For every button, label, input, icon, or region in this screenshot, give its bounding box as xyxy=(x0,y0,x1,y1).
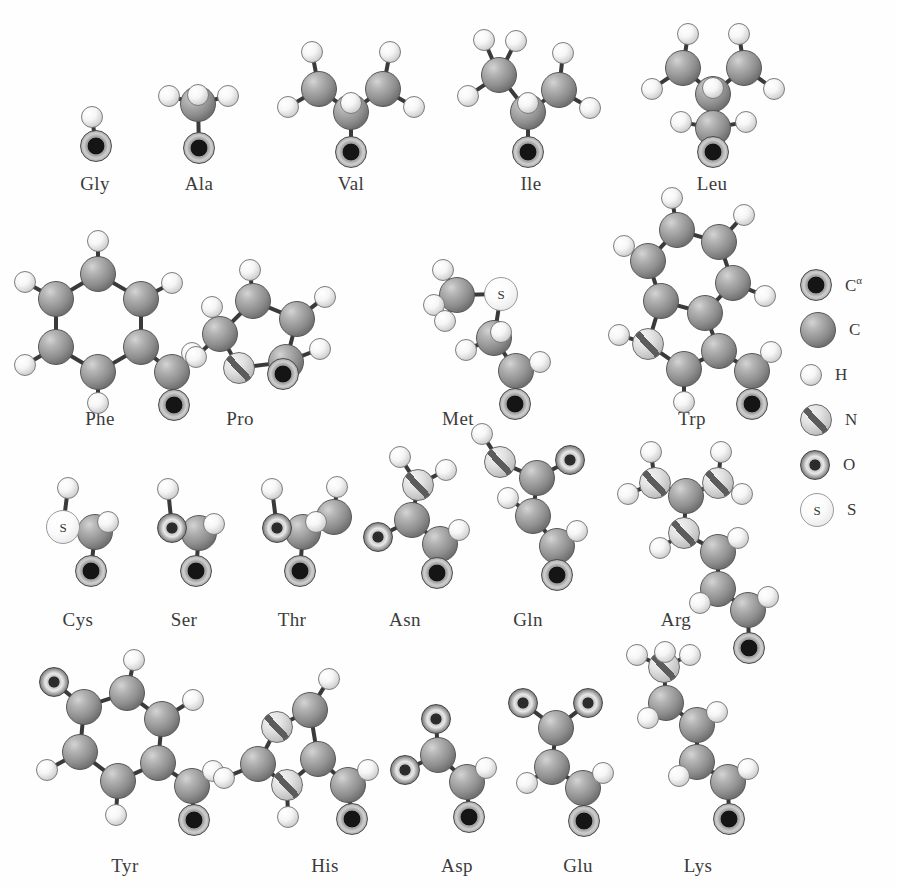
atom-hydrogen-glu xyxy=(592,762,614,784)
atom-hydrogen-trp xyxy=(613,235,635,257)
atom-hydrogen-pro xyxy=(309,338,331,360)
legend-label-oxygen: O xyxy=(843,455,855,475)
atom-hydrogen-ile xyxy=(457,85,479,107)
atom-hydrogen-gln xyxy=(566,520,588,542)
legend-row-carbon: C xyxy=(800,312,860,348)
legend-swatch-sulfur-icon: S xyxy=(800,493,834,527)
atom-nitrogen-trp xyxy=(632,328,664,360)
atom-hydrogen-met xyxy=(434,310,456,332)
atom-hydrogen-his xyxy=(277,806,299,828)
atom-hydrogen-ile xyxy=(473,29,495,51)
atom-c-alpha-gly xyxy=(80,130,112,162)
atom-sulfur-cys: S xyxy=(46,510,80,544)
atom-carbon-phe xyxy=(38,281,74,317)
atom-carbon-glu xyxy=(538,710,574,746)
atom-carbon-tyr xyxy=(144,701,180,737)
atom-oxygen-asp xyxy=(390,755,420,785)
atom-hydrogen-leu xyxy=(735,111,757,133)
atom-carbon-leu xyxy=(726,50,762,86)
atom-hydrogen-ala xyxy=(158,85,180,107)
atom-hydrogen-val xyxy=(403,96,425,118)
atom-carbon-glu xyxy=(534,749,570,785)
atom-carbon-gln xyxy=(519,460,555,496)
atom-hydrogen-arg xyxy=(640,441,662,463)
atom-c-alpha-his xyxy=(336,803,368,835)
legend-swatch-nitrogen-icon xyxy=(800,404,832,436)
atom-carbon-tyr xyxy=(109,675,145,711)
atom-carbon-val xyxy=(301,71,337,107)
atom-carbon-arg xyxy=(668,478,704,514)
atom-hydrogen-phe xyxy=(14,271,36,293)
atom-hydrogen-leu xyxy=(702,77,724,99)
atom-hydrogen-val xyxy=(277,96,299,118)
legend-swatch-carbon-icon xyxy=(800,312,836,348)
atom-hydrogen-phe xyxy=(14,354,36,376)
atom-hydrogen-asn xyxy=(448,519,470,541)
atom-hydrogen-pro xyxy=(239,259,261,281)
atom-hydrogen-pro xyxy=(185,346,207,368)
atom-hydrogen-thr xyxy=(326,476,348,498)
atom-carbon-trp xyxy=(687,295,723,331)
atom-carbon-ile xyxy=(481,57,517,93)
atom-hydrogen-phe xyxy=(161,272,183,294)
legend-label-c-alpha: Cα xyxy=(845,274,862,296)
atom-c-alpha-leu xyxy=(697,136,729,168)
atom-carbon-pro xyxy=(202,316,238,352)
atom-hydrogen-arg xyxy=(689,592,711,614)
amino-acid-figure: SS GlyAlaValIleLeuPheProMetTrpCysSerThrA… xyxy=(0,0,897,888)
atom-c-alpha-asn xyxy=(421,557,453,589)
atom-hydrogen-ala xyxy=(217,85,239,107)
atom-carbon-phe xyxy=(123,329,159,365)
atom-carbon-pro xyxy=(235,283,271,319)
atom-hydrogen-ser xyxy=(203,513,225,535)
atom-oxygen-thr xyxy=(262,513,292,543)
atom-hydrogen-trp xyxy=(754,285,776,307)
atom-hydrogen-his xyxy=(318,668,340,690)
legend-swatch-c-alpha-icon xyxy=(800,269,832,301)
atom-hydrogen-asn xyxy=(435,459,457,481)
atom-carbon-his xyxy=(240,746,276,782)
atom-hydrogen-ala xyxy=(187,84,209,106)
atom-c-alpha-lys xyxy=(713,803,745,835)
atom-carbon-trp xyxy=(701,333,737,369)
atom-c-alpha-asp xyxy=(453,801,485,833)
atom-c-alpha-cys xyxy=(75,555,107,587)
atom-carbon-trp xyxy=(643,283,679,319)
atom-hydrogen-cys xyxy=(97,511,119,533)
atom-carbon-phe xyxy=(123,281,159,317)
atom-hydrogen-his xyxy=(213,767,235,789)
atom-oxygen-glu xyxy=(508,688,538,718)
atom-hydrogen-phe xyxy=(87,392,109,414)
atom-carbon-trp xyxy=(701,224,737,260)
atom-carbon-tyr xyxy=(140,745,176,781)
atom-carbon-trp xyxy=(659,212,695,248)
atom-hydrogen-pro xyxy=(201,296,223,318)
atom-hydrogen-gly xyxy=(81,106,103,128)
atom-hydrogen-leu xyxy=(670,111,692,133)
atom-hydrogen-met xyxy=(529,351,551,373)
atom-hydrogen-leu xyxy=(728,23,750,45)
atom-hydrogen-gln xyxy=(497,487,519,509)
atom-nitrogen-gln xyxy=(484,446,516,478)
atom-hydrogen-met xyxy=(432,259,454,281)
atom-carbon-leu xyxy=(665,50,701,86)
atom-hydrogen-thr xyxy=(305,511,327,533)
legend-label-hydrogen: H xyxy=(835,365,847,385)
atom-c-alpha-ser xyxy=(180,555,212,587)
atom-carbon-pro xyxy=(279,301,315,337)
atom-hydrogen-gln xyxy=(471,423,493,445)
atom-hydrogen-met xyxy=(455,339,477,361)
atom-nitrogen-asn xyxy=(402,469,434,501)
atom-hydrogen-tyr xyxy=(182,689,204,711)
atom-carbon-phe xyxy=(38,329,74,365)
atom-c-alpha-glu xyxy=(568,805,600,837)
atom-hydrogen-trp xyxy=(673,391,695,413)
atom-hydrogen-pro xyxy=(314,286,336,308)
atom-nitrogen-pro xyxy=(223,352,255,384)
atom-oxygen-gln xyxy=(555,445,585,475)
atom-c-alpha-pro xyxy=(267,358,299,390)
atom-nitrogen-arg xyxy=(668,517,700,549)
legend-row-sulfur: SS xyxy=(800,493,856,527)
atom-carbon-ile xyxy=(541,72,577,108)
legend-row-c-alpha: Cα xyxy=(800,269,862,301)
